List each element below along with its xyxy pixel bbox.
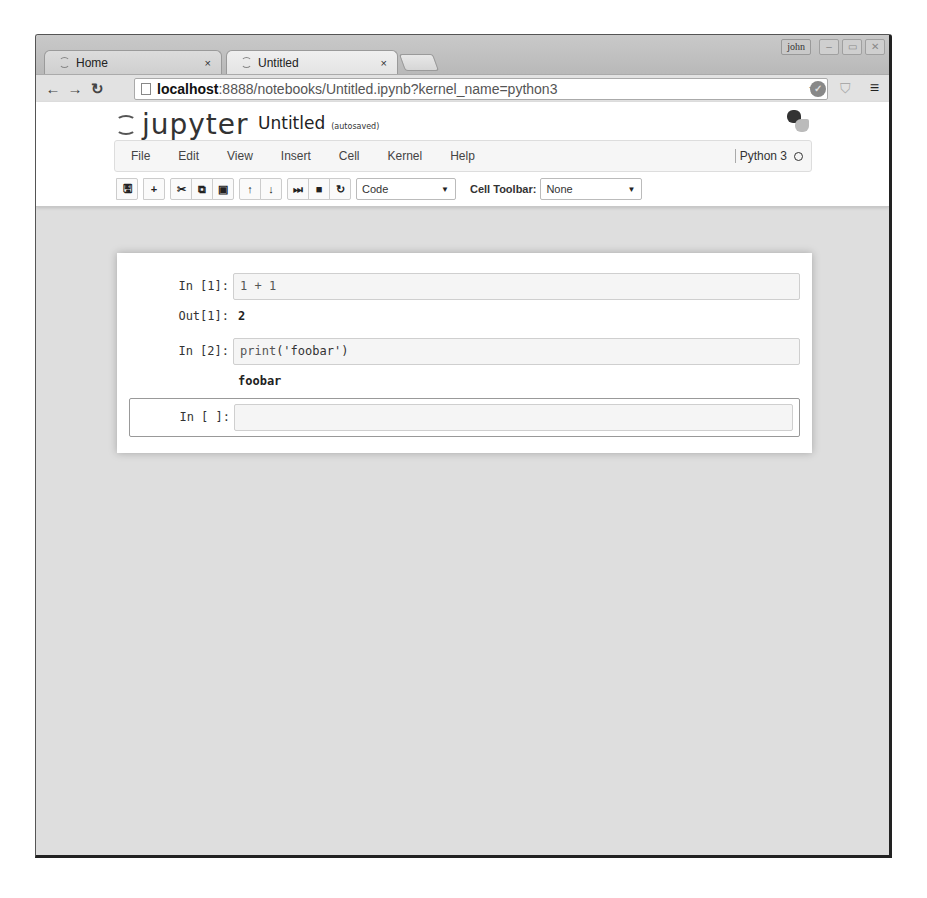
- reload-button[interactable]: ↻: [86, 80, 108, 98]
- tab-untitled[interactable]: Untitled ×: [226, 50, 398, 74]
- menu-file[interactable]: File: [115, 149, 164, 163]
- notebook-page: jupyter Untitled(autosaved) File Edit Vi…: [36, 102, 889, 855]
- page-icon: [141, 83, 151, 95]
- cell-output: 2: [233, 303, 800, 329]
- url-path: :8888/notebooks/Untitled.ipynb?kernel_na…: [218, 81, 557, 97]
- url-host: localhost: [157, 81, 218, 97]
- kernel-name: Python 3: [740, 149, 787, 163]
- input-prompt: In [2]:: [129, 338, 233, 364]
- restart-kernel-button[interactable]: ↻: [329, 178, 351, 200]
- cell-toolbar-select[interactable]: None ▼: [540, 178, 642, 200]
- output-prompt: Out[1]:: [129, 303, 233, 329]
- notebook-container: In [1]: 1 + 1 Out[1]: 2 In [2]: print('f…: [117, 253, 812, 453]
- cell-toolbar-label: Cell Toolbar:: [470, 183, 536, 195]
- menu-cell[interactable]: Cell: [325, 149, 374, 163]
- code-input[interactable]: [234, 404, 793, 431]
- cell-toolbar-value: None: [546, 183, 572, 195]
- tab-close-icon[interactable]: ×: [205, 57, 211, 69]
- jupyter-header: jupyter Untitled(autosaved) File Edit Vi…: [36, 102, 889, 207]
- notebook-name[interactable]: Untitled(autosaved): [258, 113, 379, 133]
- logo-text: jupyter: [142, 108, 249, 141]
- browser-toolbar: ← → ↻ localhost :8888/notebooks/Untitled…: [36, 74, 889, 102]
- forward-button[interactable]: →: [64, 80, 86, 97]
- notebook-toolbar: 🖫 + ✂ ⧉ ▣ ↑ ↓ ⏭ ■ ↻: [116, 178, 642, 200]
- cell-type-select[interactable]: Code ▼: [356, 178, 456, 200]
- code-cell-2[interactable]: In [2]: print('foobar'): [129, 338, 800, 365]
- loading-icon: [241, 57, 252, 68]
- tab-label: Untitled: [258, 56, 381, 70]
- code-function: print: [240, 344, 276, 358]
- chevron-down-icon: ▼: [441, 185, 449, 194]
- cut-button[interactable]: ✂: [170, 178, 192, 200]
- output-cell-2: foobar: [129, 368, 800, 394]
- minimize-button[interactable]: –: [819, 39, 839, 55]
- tab-label: Home: [76, 56, 205, 70]
- address-bar[interactable]: localhost :8888/notebooks/Untitled.ipynb…: [134, 78, 828, 100]
- tab-home[interactable]: Home ×: [44, 50, 222, 74]
- extension-check-icon[interactable]: ✓: [810, 81, 826, 97]
- jupyter-logo[interactable]: jupyter: [114, 108, 249, 141]
- move-down-button[interactable]: ↓: [260, 178, 282, 200]
- maximize-button[interactable]: ▭: [842, 39, 862, 55]
- menu-insert[interactable]: Insert: [267, 149, 325, 163]
- menu-edit[interactable]: Edit: [164, 149, 213, 163]
- menu-kernel[interactable]: Kernel: [374, 149, 437, 163]
- code-cell-3-selected[interactable]: In [ ]:: [129, 398, 800, 437]
- python-logo-icon: [787, 110, 809, 132]
- menu-bar: File Edit View Insert Cell Kernel Help P…: [114, 140, 812, 172]
- chevron-down-icon: ▼: [628, 185, 636, 194]
- jupyter-logo-icon: [114, 114, 134, 136]
- browser-window: Home × Untitled × john – ▭ ✕ ← → ↻ local…: [35, 34, 892, 858]
- code-args: ('foobar'): [276, 344, 348, 358]
- kernel-indicator: Python 3: [735, 149, 803, 163]
- user-badge[interactable]: john: [781, 39, 811, 55]
- notebook-title[interactable]: Untitled: [258, 113, 325, 133]
- menu-view[interactable]: View: [213, 149, 267, 163]
- interrupt-button[interactable]: ■: [308, 178, 330, 200]
- save-button[interactable]: 🖫: [116, 178, 138, 200]
- code-input[interactable]: print('foobar'): [233, 338, 800, 365]
- cell-type-value: Code: [362, 183, 388, 195]
- move-up-button[interactable]: ↑: [239, 178, 261, 200]
- close-window-button[interactable]: ✕: [865, 39, 885, 55]
- title-bar: Home × Untitled × john – ▭ ✕: [36, 35, 889, 75]
- cell-output: foobar: [233, 368, 800, 394]
- run-cell-button[interactable]: ⏭: [287, 178, 309, 200]
- autosave-status: (autosaved): [331, 122, 379, 131]
- input-prompt: In [ ]:: [130, 404, 234, 430]
- copy-button[interactable]: ⧉: [191, 178, 213, 200]
- code-cell-1[interactable]: In [1]: 1 + 1: [129, 273, 800, 300]
- back-button[interactable]: ←: [42, 80, 64, 97]
- menu-help[interactable]: Help: [436, 149, 489, 163]
- output-cell-1: Out[1]: 2: [129, 303, 800, 329]
- input-prompt: In [1]:: [129, 273, 233, 299]
- tab-close-icon[interactable]: ×: [381, 57, 387, 69]
- extension-shield-icon[interactable]: ⛉: [840, 80, 851, 97]
- loading-icon: [59, 57, 70, 68]
- browser-menu-icon[interactable]: ≡: [870, 79, 879, 97]
- insert-cell-button[interactable]: +: [143, 178, 165, 200]
- paste-button[interactable]: ▣: [212, 178, 234, 200]
- new-tab-button[interactable]: [399, 54, 439, 71]
- code-input[interactable]: 1 + 1: [233, 273, 800, 300]
- kernel-idle-icon: [794, 152, 803, 161]
